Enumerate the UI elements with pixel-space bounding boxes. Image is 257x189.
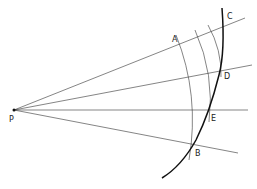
- label-a: A: [172, 35, 178, 44]
- label-d: D: [224, 72, 230, 81]
- label-c: C: [227, 12, 233, 21]
- label-b: B: [195, 149, 201, 158]
- label-e: E: [211, 114, 216, 123]
- label-p: P: [9, 115, 14, 124]
- arc-a-b: [176, 35, 192, 160]
- locus-curve: [162, 8, 223, 178]
- arc-inner: [208, 25, 221, 77]
- ray-through-b: [14, 110, 238, 153]
- point-p-marker: [13, 109, 16, 112]
- arc-middle: [195, 30, 210, 122]
- diagram-canvas: P A C D E B: [0, 0, 257, 189]
